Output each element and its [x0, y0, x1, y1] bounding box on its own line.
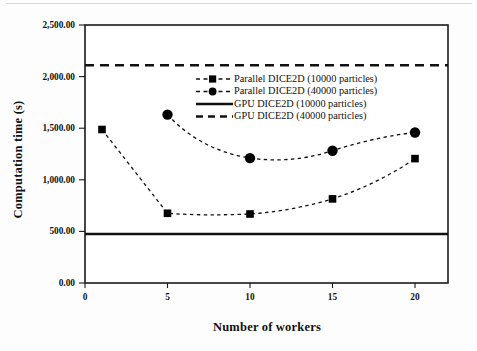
legend-label-1: Parallel DICE2D (40000 particles) — [234, 85, 377, 97]
legend-marker-circle — [209, 88, 217, 96]
y-tick-label-1500: 1,500.00 — [19, 123, 75, 133]
legend-label-0: Parallel DICE2D (10000 particles) — [234, 73, 377, 85]
legend-marker-square — [209, 75, 216, 82]
x-tick-label-15: 15 — [318, 292, 348, 302]
x-tick-label-0: 0 — [70, 292, 100, 302]
plot-area-border — [85, 25, 448, 283]
legend-label-2: GPU DICE2D (10000 particles) — [234, 98, 366, 110]
legend-label-3: GPU DICE2D (40000 particles) — [234, 110, 366, 122]
x-axis-title: Number of workers — [86, 320, 448, 335]
y-tick-label-1000: 1,000.00 — [19, 175, 75, 185]
y-tick-label-0: 0.00 — [19, 278, 75, 288]
y-tick-label-2500: 2,500.00 — [19, 20, 75, 30]
x-tick-label-5: 5 — [153, 292, 183, 302]
y-tick-label-500: 500.00 — [19, 226, 75, 236]
x-tick-label-20: 20 — [400, 292, 430, 302]
x-tick-label-10: 10 — [235, 292, 265, 302]
y-tick-label-2000: 2,000.00 — [19, 72, 75, 82]
y-axis-title: Computation time (s) — [11, 80, 26, 240]
y-axis-ticks — [79, 25, 85, 283]
figure-container: Parallel DICE2D (10000 particles) Parall… — [0, 0, 477, 351]
